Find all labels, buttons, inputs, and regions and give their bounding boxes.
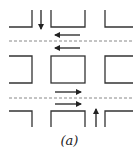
block-middle-center <box>51 56 85 83</box>
block-bottom-left <box>9 111 32 127</box>
block-bottom-middle <box>51 111 85 127</box>
block-middle-right <box>105 56 133 83</box>
block-top-middle <box>51 10 85 27</box>
block-top-left <box>9 10 32 27</box>
block-bottom-right <box>105 111 133 127</box>
figure-caption: (a) <box>0 133 139 148</box>
block-middle-left <box>9 56 32 83</box>
block-top-right <box>105 10 133 27</box>
